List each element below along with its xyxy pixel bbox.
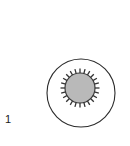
figure-background <box>0 0 130 146</box>
panel-label: 1 <box>5 113 11 125</box>
figure-graphic <box>0 0 130 146</box>
inner-body-circle <box>65 73 95 103</box>
figure-panel: 1 <box>0 0 130 146</box>
